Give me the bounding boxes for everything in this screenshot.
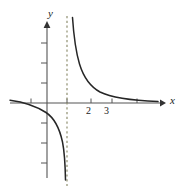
- curve-branch-left: [10, 100, 66, 180]
- x-tick-label-3: 3: [104, 106, 109, 116]
- y-axis-arrowhead: [44, 21, 51, 28]
- graph-canvas: [0, 0, 193, 191]
- y-axis: [41, 21, 50, 178]
- x-tick-label-2: 2: [86, 106, 91, 116]
- curve-branch-right: [73, 18, 159, 102]
- x-axis-label: x: [170, 95, 175, 106]
- y-axis-label: y: [48, 8, 53, 19]
- hyperbola-figure: y x 2 3: [0, 0, 193, 191]
- x-axis-arrowhead: [160, 100, 166, 107]
